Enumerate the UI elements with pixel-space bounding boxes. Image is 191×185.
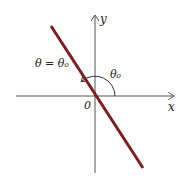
y-axis-label: y bbox=[99, 12, 107, 26]
polar-line bbox=[51, 26, 143, 168]
x-axis-label: x bbox=[168, 100, 175, 114]
angle-label: θ₀ bbox=[110, 68, 122, 81]
line-equation-label: θ = θ₀ bbox=[35, 57, 69, 70]
polar-diagram: y x 0 θ = θ₀ θ₀ bbox=[0, 0, 191, 185]
origin-label: 0 bbox=[84, 99, 91, 112]
